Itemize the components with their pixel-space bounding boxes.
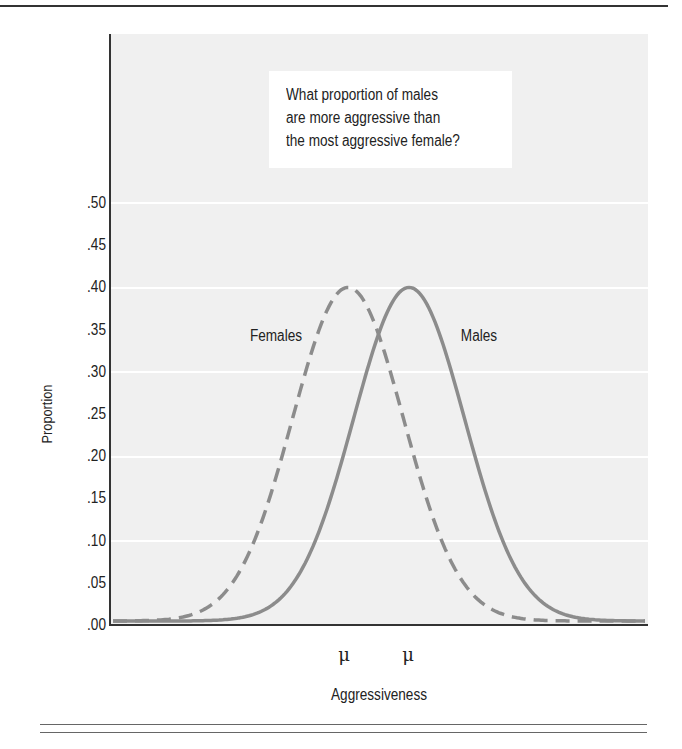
males-label: Males — [461, 327, 497, 345]
ytick-40: .40 — [75, 278, 106, 296]
ytick-00: .00 — [75, 616, 106, 634]
ytick-35: .35 — [75, 321, 106, 339]
ytick-20: .20 — [75, 447, 106, 465]
ytick-05: .05 — [75, 574, 106, 592]
females-label: Females — [250, 327, 302, 345]
ytick-45: .45 — [75, 236, 106, 254]
x-axis — [109, 624, 648, 626]
female-mean-tick: μ — [338, 644, 350, 665]
ytick-25: .25 — [75, 405, 106, 423]
ytick-10: .10 — [75, 532, 106, 550]
male-mean-tick: μ — [402, 644, 414, 665]
bottom-rule-1 — [40, 724, 647, 725]
x-axis-label: Aggressiveness — [331, 686, 427, 704]
male-curve — [113, 287, 645, 621]
y-axis — [109, 34, 111, 626]
y-axis-label: Proportion — [38, 385, 55, 444]
bottom-rule-2 — [40, 732, 647, 733]
ytick-30: .30 — [75, 363, 106, 381]
ytick-15: .15 — [75, 489, 106, 507]
ytick-50: .50 — [75, 194, 106, 212]
